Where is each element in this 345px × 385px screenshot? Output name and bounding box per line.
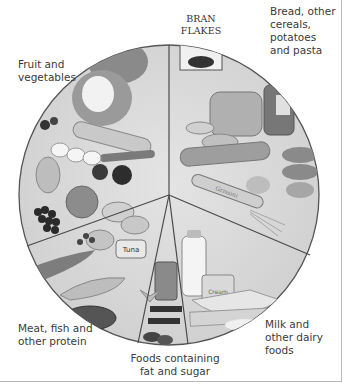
label-meat-fish-protein: Meat, fish and other protein [18, 322, 93, 348]
label-line: Meat, fish and [18, 322, 93, 335]
label-line: Fruit and [18, 58, 76, 71]
label-line: fat and sugar [120, 365, 230, 378]
label-fruit-vegetables: Fruit and vegetables [18, 58, 76, 84]
label-line: other dairy [265, 331, 323, 344]
label-line: potatoes [270, 31, 336, 44]
label-milk-dairy: Milk and other dairy foods [265, 318, 323, 357]
label-line: Milk and [265, 318, 323, 331]
cereal-box-text-2: FLAKES [181, 25, 221, 36]
label-line: Bread, other [270, 5, 336, 18]
tuna-tin-text: Tuna [122, 246, 139, 254]
label-line: Foods containing [120, 352, 230, 365]
label-line: cereals, [270, 18, 336, 31]
cereal-box-text-1: BRAN [186, 13, 215, 24]
label-line: vegetables [18, 71, 76, 84]
label-fat-sugar: Foods containing fat and sugar [120, 352, 230, 378]
label-bread-cereals: Bread, other cereals, potatoes and pasta [270, 5, 336, 57]
label-line: and pasta [270, 44, 336, 57]
label-line: other protein [18, 335, 93, 348]
label-line: foods [265, 344, 323, 357]
cream-pot-text: Cream [208, 288, 228, 295]
